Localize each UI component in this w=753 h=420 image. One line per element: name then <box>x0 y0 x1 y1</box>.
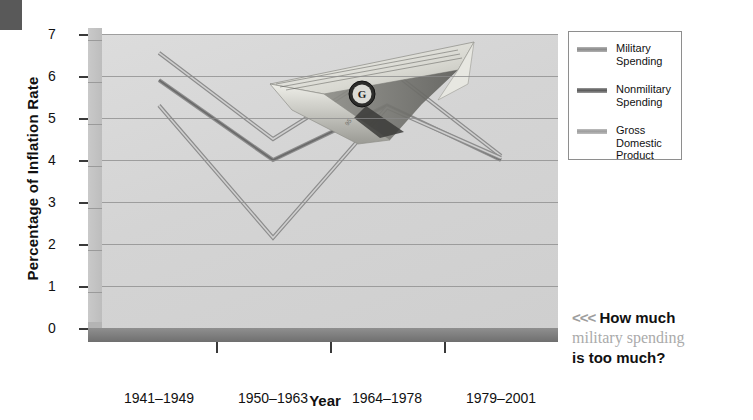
gridline <box>102 244 558 245</box>
gridline-wall-step <box>88 292 102 293</box>
legend-label-line-1: Nonmilitary <box>616 83 671 95</box>
legend-swatch-icon <box>577 129 607 134</box>
y-axis-tick <box>79 160 88 162</box>
legend-label: Gross Domestic Product <box>616 124 662 162</box>
y-axis-title: Percentage of Inflation Rate <box>24 19 41 339</box>
chart-legend: Military Spending Nonmilitary Spending G… <box>568 31 682 160</box>
inflation-rate-line-chart: Percentage of Inflation Rate Year <box>0 0 565 420</box>
gridline <box>102 160 558 161</box>
gridline <box>102 286 558 287</box>
x-axis-tick-label: 1950–1963 <box>218 390 328 406</box>
legend-label-line-2: Domestic <box>616 137 662 149</box>
legend-label: Nonmilitary Spending <box>616 83 671 108</box>
gridline-wall-step <box>88 82 102 83</box>
callout-line-2: military spending <box>572 328 748 348</box>
y-axis-tick-label: 5 <box>48 110 80 126</box>
y-axis-tick <box>79 118 88 120</box>
y-axis-tick <box>79 34 88 36</box>
legend-label-line-2: Spending <box>616 96 663 108</box>
y-axis-tick-label: 6 <box>48 68 80 84</box>
y-axis-tick-label: 7 <box>48 26 80 42</box>
legend-item-military-spending[interactable]: Military Spending <box>577 42 663 67</box>
axis-floor <box>88 328 558 342</box>
callout-box: <<< How much military spending is too mu… <box>572 308 748 368</box>
y-axis-tick-label: 4 <box>48 152 80 168</box>
axis-wall-left <box>88 28 102 328</box>
series-line-outline <box>159 53 501 156</box>
y-axis-tick-label: 0 <box>48 320 80 336</box>
plot-area: G 95 765432101941–19491950–19631964–1978… <box>88 28 558 356</box>
gridline-wall-step <box>88 40 102 41</box>
x-axis-tick-label: 1941–1949 <box>104 390 214 406</box>
legend-label: Military Spending <box>616 42 663 67</box>
y-axis-tick <box>79 76 88 78</box>
gridline-wall-step <box>88 124 102 125</box>
callout-text-1: How much <box>599 309 675 326</box>
plot-face: G 95 <box>102 34 558 328</box>
gridline <box>102 34 558 35</box>
y-axis-tick <box>79 244 88 246</box>
legend-swatch-icon <box>577 88 607 93</box>
callout-line-3: is too much? <box>572 348 748 368</box>
x-axis-tick <box>216 342 218 353</box>
y-axis-tick-label: 3 <box>48 194 80 210</box>
legend-item-gross-domestic-product[interactable]: Gross Domestic Product <box>577 124 662 162</box>
x-axis-tick-label: 1964–1978 <box>332 390 442 406</box>
callout-line-1: <<< How much <box>572 308 748 328</box>
legend-label-line-3: Product <box>616 149 654 161</box>
legend-label-line-2: Spending <box>616 55 663 67</box>
x-axis-tick <box>330 342 332 353</box>
series-lines <box>102 34 558 328</box>
gridline <box>102 202 558 203</box>
y-axis-tick-label: 1 <box>48 278 80 294</box>
y-axis-tick <box>79 286 88 288</box>
y-axis-tick <box>79 202 88 204</box>
gridline-wall-step <box>88 166 102 167</box>
y-axis-tick <box>79 328 88 330</box>
series-line <box>159 105 501 237</box>
x-axis-tick <box>444 342 446 353</box>
legend-item-nonmilitary-spending[interactable]: Nonmilitary Spending <box>577 83 671 108</box>
chevrons-icon: <<< <box>572 309 595 326</box>
legend-label-line-1: Military <box>616 42 651 54</box>
x-axis-tick-label: 1979–2001 <box>446 390 556 406</box>
gridline <box>102 76 558 77</box>
gridline-wall-step <box>88 250 102 251</box>
gridline <box>102 118 558 119</box>
gridline-wall-step <box>88 208 102 209</box>
legend-swatch-icon <box>577 47 607 52</box>
legend-label-line-1: Gross <box>616 124 645 136</box>
y-axis-tick-label: 2 <box>48 236 80 252</box>
